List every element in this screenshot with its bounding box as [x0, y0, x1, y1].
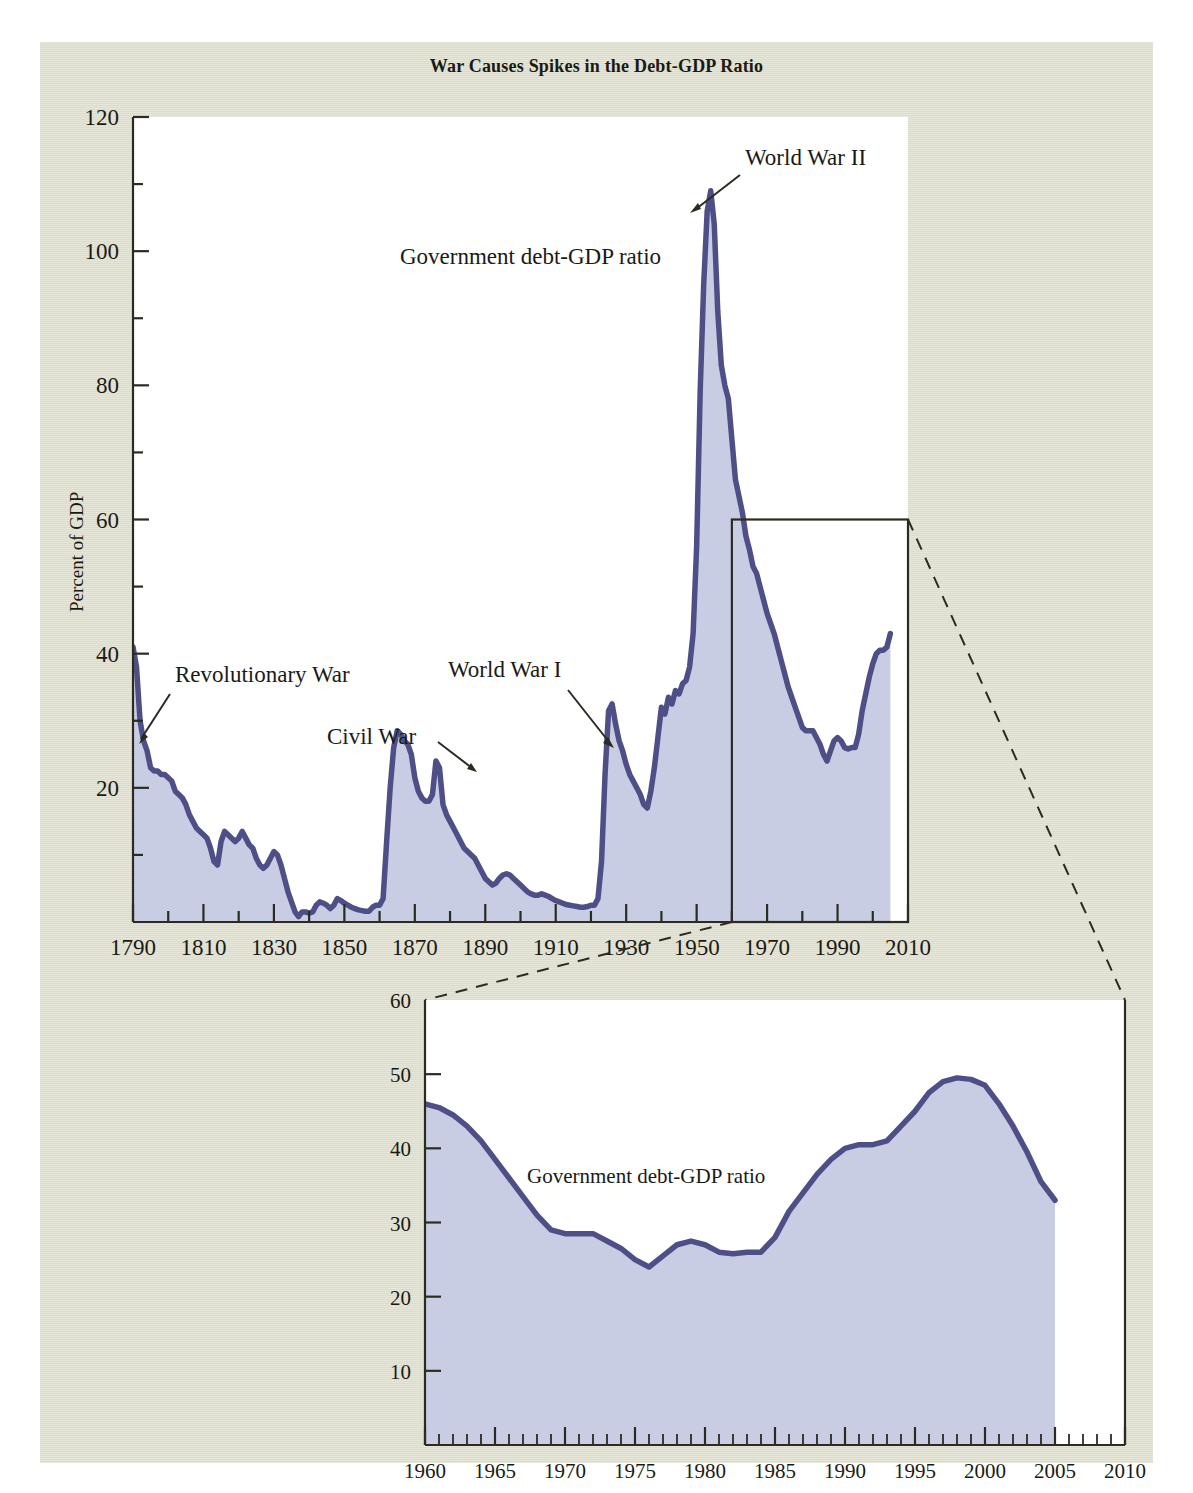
tick-label: 2010: [885, 935, 931, 960]
tick-label: 60: [390, 989, 411, 1013]
tick-label: 30: [390, 1212, 411, 1236]
tick-label: 10: [390, 1360, 411, 1384]
tick-label: 50: [390, 1063, 411, 1087]
annotation-civil-war-label: Civil War: [327, 724, 416, 749]
tick-label: 1790: [110, 935, 156, 960]
annotation-world-war-ii-label: World War II: [745, 145, 866, 170]
tick-label: 1975: [614, 1459, 656, 1483]
figure-panel: War Causes Spikes in the Debt-GDP Ratio …: [40, 42, 1153, 1463]
tick-label: 1850: [321, 935, 367, 960]
tick-label: 20: [390, 1286, 411, 1310]
tick-label: 2000: [964, 1459, 1006, 1483]
tick-label: 2005: [1034, 1459, 1076, 1483]
main-chart: 20406080100120 1790181018301850187018901…: [85, 105, 932, 960]
tick-label: 20: [96, 776, 119, 801]
tick-label: 40: [390, 1137, 411, 1161]
tick-label: 2010: [1104, 1459, 1146, 1483]
tick-label: 1985: [754, 1459, 796, 1483]
tick-label: 80: [96, 373, 119, 398]
tick-label: 1960: [404, 1459, 446, 1483]
tick-label: 1965: [474, 1459, 516, 1483]
tick-label: 1890: [462, 935, 508, 960]
main-series-label: Government debt-GDP ratio: [400, 244, 661, 269]
annotation-revolutionary-war-label: Revolutionary War: [175, 662, 350, 687]
inset-series-label: Government debt-GDP ratio: [527, 1164, 765, 1188]
tick-label: 120: [85, 105, 120, 130]
tick-label: 1810: [180, 935, 226, 960]
tick-label: 1970: [544, 1459, 586, 1483]
chart-page: War Causes Spikes in the Debt-GDP Ratio …: [0, 0, 1193, 1493]
annotation-world-war-i-label: World War I: [448, 657, 561, 682]
tick-label: 1870: [392, 935, 438, 960]
tick-label: 1910: [533, 935, 579, 960]
tick-label: 1980: [684, 1459, 726, 1483]
tick-label: 100: [85, 239, 120, 264]
tick-label: 1990: [815, 935, 861, 960]
tick-label: 1990: [824, 1459, 866, 1483]
tick-label: 1950: [674, 935, 720, 960]
tick-label: 40: [96, 642, 119, 667]
chart-canvas: 20406080100120 1790181018301850187018901…: [40, 42, 1153, 1463]
inset-chart: 102030405060 196019651970197519801985199…: [390, 989, 1146, 1483]
tick-label: 1830: [251, 935, 297, 960]
tick-label: 60: [96, 508, 119, 533]
tick-label: 1970: [744, 935, 790, 960]
tick-label: 1995: [894, 1459, 936, 1483]
tick-label: 1930: [603, 935, 649, 960]
